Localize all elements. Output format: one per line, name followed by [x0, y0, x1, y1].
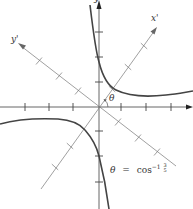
angle-theta-label: θ: [109, 94, 114, 103]
equation-cos: cos: [137, 165, 152, 175]
equation-equals: =: [122, 165, 130, 175]
equation-exponent: −1: [152, 163, 161, 170]
rotation-angle-equation: θ = cos−1 3 5: [110, 163, 167, 175]
hyperbola-upper-branch: [90, 5, 193, 96]
hyperbola-rotation-diagram: y x' y' θ θ = cos−1 3 5: [0, 0, 193, 209]
equation-theta: θ: [110, 165, 115, 175]
hyperbola-lower-branch: [0, 119, 109, 209]
diagram-canvas: [0, 0, 193, 209]
fraction-denominator: 5: [164, 168, 167, 173]
y-axis-label: y: [94, 0, 99, 3]
x-prime-label: x': [151, 14, 159, 23]
equation-fraction: 3 5: [164, 163, 167, 173]
y-prime-label: y': [11, 35, 19, 44]
